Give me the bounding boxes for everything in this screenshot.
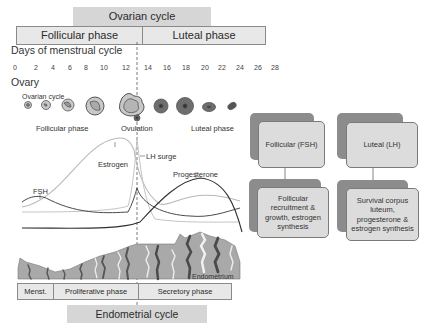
proliferative-cell: Proliferative phase <box>53 284 138 299</box>
luteal-card-title: Luteal (LH) <box>363 140 400 149</box>
follicular-card-title: Follicular (FSH) <box>265 140 317 149</box>
follicular-card: Follicular (FSH) <box>258 121 325 168</box>
secretory-label: Secretory phase <box>158 287 213 296</box>
endometrial-cycle-title: Endometrial cycle <box>96 308 179 320</box>
menst-label: Menst. <box>24 287 47 296</box>
luteal-effect-card: Survival corpus luteum, progesterone & e… <box>346 188 419 241</box>
endometrial-phase-row: Menst. Proliferative phase Secretory pha… <box>17 283 232 300</box>
follicular-effect-text: Follicular recruitment & growth, estroge… <box>260 194 326 232</box>
follicular-effect-card: Follicular recruitment & growth, estroge… <box>257 187 329 238</box>
luteal-card: Luteal (LH) <box>346 122 418 168</box>
menst-cell: Menst. <box>18 284 53 299</box>
endometrium-label: Endometrium <box>192 273 234 280</box>
proliferative-label: Proliferative phase <box>65 287 127 296</box>
secretory-cell: Secretory phase <box>138 284 231 299</box>
endometrial-cycle-header: Endometrial cycle <box>67 305 207 323</box>
luteal-effect-text: Survival corpus luteum, progesterone & e… <box>349 196 416 234</box>
